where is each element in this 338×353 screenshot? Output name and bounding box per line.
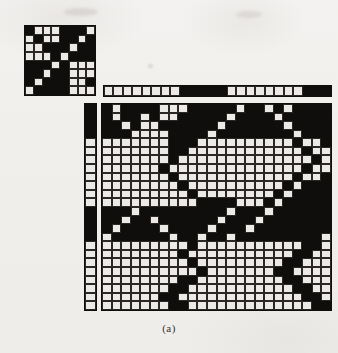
matrix-cell [43, 26, 52, 35]
matrix-cell [25, 86, 34, 95]
matrix-cell [150, 130, 160, 139]
matrix-cell [112, 173, 122, 182]
scan-smudge-center [148, 64, 153, 68]
matrix-cell [169, 130, 179, 139]
matrix-cell [255, 181, 265, 190]
matrix-cell [131, 130, 141, 139]
matrix-cell [264, 258, 274, 267]
matrix-cell [236, 233, 246, 242]
matrix-cell [245, 233, 255, 242]
matrix-cell [113, 86, 122, 96]
matrix-cell [178, 207, 188, 216]
matrix-cell [217, 250, 227, 259]
matrix-cell [178, 301, 188, 310]
matrix-cell [102, 164, 112, 173]
matrix-cell [169, 113, 179, 122]
matrix-cell [217, 241, 227, 250]
matrix-cell [255, 130, 265, 139]
matrix-cell [131, 207, 141, 216]
matrix-cell [131, 147, 141, 156]
matrix-cell [159, 233, 169, 242]
matrix-cell [283, 301, 293, 310]
matrix-cell [321, 284, 331, 293]
matrix-cell [302, 250, 312, 259]
matrix-cell [112, 207, 122, 216]
matrix-cell [178, 267, 188, 276]
matrix-cell [226, 293, 236, 302]
matrix-cell [140, 190, 150, 199]
matrix-cell [302, 258, 312, 267]
matrix-cell [112, 276, 122, 285]
matrix-cell [226, 276, 236, 285]
matrix-cell [217, 267, 227, 276]
matrix-cell [274, 284, 284, 293]
matrix-cell [321, 147, 331, 156]
matrix-cell [159, 293, 169, 302]
matrix-cell [245, 224, 255, 233]
matrix-cell [207, 190, 217, 199]
matrix-cell [112, 216, 122, 225]
matrix-cell [112, 233, 122, 242]
matrix-cell [321, 198, 331, 207]
matrix-cell [140, 250, 150, 259]
matrix-cell [159, 301, 169, 310]
matrix-cell [197, 198, 207, 207]
matrix-cell [159, 190, 169, 199]
matrix-cell [102, 121, 112, 130]
matrix-cell [321, 267, 331, 276]
matrix-cell [159, 155, 169, 164]
matrix-cell [78, 26, 87, 35]
matrix-cell [150, 233, 160, 242]
matrix-cell [245, 284, 255, 293]
matrix-cell [169, 216, 179, 225]
matrix-cell [51, 43, 60, 52]
matrix-cell [112, 224, 122, 233]
matrix-cell [302, 138, 312, 147]
matrix-cell [264, 113, 274, 122]
matrix-cell [131, 276, 141, 285]
matrix-cell [121, 164, 131, 173]
matrix-cell [121, 207, 131, 216]
matrix-cell [321, 155, 331, 164]
matrix-cell [159, 121, 169, 130]
matrix-cell [321, 130, 331, 139]
matrix-cell [197, 293, 207, 302]
matrix-cell [199, 86, 208, 96]
matrix-cell [25, 43, 34, 52]
matrix-cell [274, 216, 284, 225]
matrix-cell [197, 130, 207, 139]
matrix-cell [236, 216, 246, 225]
matrix-cell [150, 173, 160, 182]
matrix-cell [178, 241, 188, 250]
matrix-cell [264, 173, 274, 182]
matrix-cell [312, 155, 322, 164]
matrix-cell [178, 284, 188, 293]
matrix-cell [207, 173, 217, 182]
matrix-cell [217, 293, 227, 302]
matrix-cell [302, 276, 312, 285]
matrix-cell [121, 138, 131, 147]
matrix-cell [274, 190, 284, 199]
matrix-cell [312, 173, 322, 182]
matrix-cell [274, 113, 284, 122]
matrix-cell [264, 121, 274, 130]
matrix-cell [255, 250, 265, 259]
matrix-cell [302, 224, 312, 233]
matrix-cell [85, 216, 96, 225]
matrix-cell [226, 224, 236, 233]
matrix-cell [283, 207, 293, 216]
matrix-cell [169, 301, 179, 310]
matrix-cell [102, 138, 112, 147]
matrix-cell [293, 147, 303, 156]
matrix-cell [69, 43, 78, 52]
matrix-cell [85, 250, 96, 259]
matrix-cell [178, 113, 188, 122]
matrix-cell [159, 258, 169, 267]
matrix-cell [102, 198, 112, 207]
matrix-cell [255, 216, 265, 225]
matrix-cell [255, 104, 265, 113]
matrix-cell [150, 113, 160, 122]
matrix-cell [25, 78, 34, 87]
matrix-cell [246, 86, 255, 96]
matrix-cell [188, 276, 198, 285]
